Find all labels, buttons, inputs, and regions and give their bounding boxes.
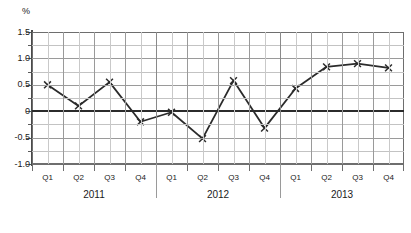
y-axis-tick-column: 1.51.00.50-0.5-1.0	[0, 0, 30, 233]
gridline-vertical-minor	[234, 32, 235, 164]
x-axis-tick	[342, 164, 343, 171]
x-axis-year-label: 2011	[32, 189, 156, 200]
gridline-vertical	[311, 32, 312, 164]
y-axis-tick-label: 1.0	[17, 54, 30, 63]
x-axis-tick	[125, 164, 126, 171]
gridline-vertical-minor	[358, 32, 359, 164]
x-axis-quarter-label: Q1	[32, 173, 63, 182]
x-axis-quarter-label: Q1	[280, 173, 311, 182]
x-axis-year-label: 2012	[156, 189, 280, 200]
x-axis-tick	[32, 164, 33, 171]
gridline-vertical-minor	[296, 32, 297, 164]
gridline-vertical	[63, 32, 64, 164]
x-axis: Q1Q2Q3Q4Q1Q2Q3Q4Q1Q2Q3Q4201120122013	[32, 164, 404, 233]
gridline-year-divider	[280, 32, 281, 164]
gridline-vertical	[94, 32, 95, 164]
quarterly-line-chart: % 1.51.00.50-0.5-1.0 Q1Q2Q3Q4Q1Q2Q3Q4Q1Q…	[0, 0, 411, 233]
x-axis-quarter-label: Q1	[156, 173, 187, 182]
x-axis-quarter-label: Q4	[373, 173, 404, 182]
x-axis-quarter-label: Q2	[187, 173, 218, 182]
gridline-vertical-minor	[203, 32, 204, 164]
gridline-vertical	[373, 32, 374, 164]
x-axis-quarter-label: Q2	[63, 173, 94, 182]
x-axis-tick	[403, 164, 404, 171]
gridline-vertical-minor	[48, 32, 49, 164]
x-axis-tick	[249, 164, 250, 171]
gridline-vertical	[218, 32, 219, 164]
x-axis-quarter-label: Q3	[94, 173, 125, 182]
gridline-vertical-minor	[265, 32, 266, 164]
x-axis-tick	[218, 164, 219, 171]
y-axis-tick-label: -1.0	[14, 160, 30, 169]
x-axis-quarter-label: Q3	[342, 173, 373, 182]
x-axis-quarter-label: Q2	[311, 173, 342, 182]
gridline-vertical-minor	[141, 32, 142, 164]
x-axis-year-label: 2013	[280, 189, 404, 200]
gridline-year-divider	[156, 32, 157, 164]
plot-area	[32, 32, 404, 164]
x-axis-quarter-label: Q4	[125, 173, 156, 182]
x-axis-tick	[311, 164, 312, 171]
y-axis-tick-label: -0.5	[14, 133, 30, 142]
gridline-vertical	[342, 32, 343, 164]
x-axis-tick	[63, 164, 64, 171]
x-axis-tick	[94, 164, 95, 171]
gridline-vertical	[187, 32, 188, 164]
y-axis-tick-label: 0	[25, 107, 30, 116]
y-axis-tick-label: 1.5	[17, 28, 30, 37]
gridline-vertical	[125, 32, 126, 164]
gridline-vertical-minor	[389, 32, 390, 164]
x-axis-quarter-label: Q3	[218, 173, 249, 182]
gridline-vertical-minor	[79, 32, 80, 164]
x-axis-tick	[373, 164, 374, 171]
x-axis-quarter-label: Q4	[249, 173, 280, 182]
gridline-vertical-minor	[327, 32, 328, 164]
x-axis-tick	[187, 164, 188, 171]
gridline-vertical	[249, 32, 250, 164]
gridline-vertical-minor	[172, 32, 173, 164]
y-axis-tick-label: 0.5	[17, 80, 30, 89]
gridline-vertical-minor	[110, 32, 111, 164]
